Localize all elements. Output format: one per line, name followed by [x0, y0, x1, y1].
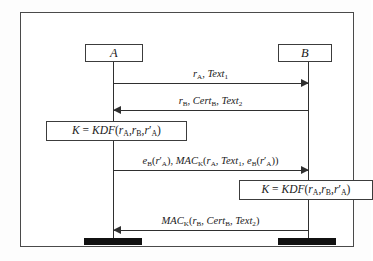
arrow-line-4 [113, 230, 308, 231]
arrow-line-2 [113, 110, 308, 111]
arrow-head-left-4 [113, 226, 121, 234]
arrow-head-right-3 [301, 166, 309, 174]
actor-box-b: B [278, 44, 332, 62]
computation-label-b: K = KDF(rA,rB,r′A) [262, 184, 351, 196]
terminator-bar-a [84, 238, 142, 245]
diagram-frame: A B rA, Text1 rB, CertB, Text2 K [20, 12, 354, 247]
computation-box-a: K = KDF(rA,rB,r′A) [46, 121, 187, 141]
message-label-2: rB, CertB, Text2 [113, 95, 308, 107]
terminator-bar-b [278, 238, 336, 245]
lifeline-a [113, 62, 115, 240]
arrow-head-left-2 [113, 106, 121, 114]
message-label-1: rA, Text1 [113, 68, 308, 80]
computation-label-a: K = KDF(rA,rB,r′A) [72, 125, 161, 137]
computation-box-b: K = KDF(rA,rB,r′A) [239, 180, 373, 200]
actor-box-a: A [85, 44, 143, 62]
lifeline-b [308, 62, 310, 240]
actor-label-b: B [301, 47, 309, 60]
message-label-3: eB(r′A), MACK(rA, Text1, eB(r′A)) [113, 155, 308, 167]
arrow-line-3 [113, 170, 308, 171]
arrow-head-right-1 [301, 79, 309, 87]
message-label-4: MACK(rB, CertB, Text2) [113, 215, 308, 227]
arrow-line-1 [113, 83, 308, 84]
actor-label-a: A [110, 47, 118, 60]
